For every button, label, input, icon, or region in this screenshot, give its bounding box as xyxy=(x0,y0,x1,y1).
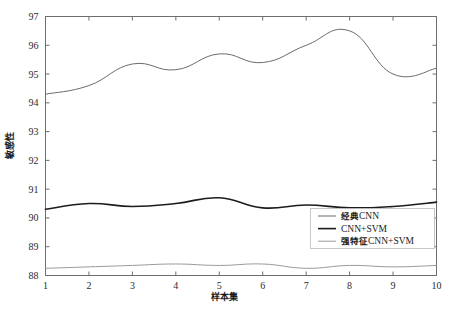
legend-label-2: CNN+SVM xyxy=(341,224,388,234)
line-chart: 88899091929394959697 12345678910 样本集 敏感性… xyxy=(0,0,449,309)
y-tick-label: 92 xyxy=(29,155,39,166)
y-tick-label: 90 xyxy=(29,212,39,223)
x-tick-label: 2 xyxy=(86,280,91,291)
y-tick-label: 91 xyxy=(29,184,39,195)
x-tick-label: 3 xyxy=(130,280,135,291)
x-tick-label: 5 xyxy=(217,280,222,291)
x-axis-title: 样本集 xyxy=(211,291,239,302)
x-tick-label: 1 xyxy=(43,280,48,291)
chart-container: 88899091929394959697 12345678910 样本集 敏感性… xyxy=(0,0,449,309)
legend: 经典CNNCNN+SVM强特征CNN+SVM xyxy=(311,209,435,249)
x-tick-label: 8 xyxy=(347,280,352,291)
x-tick-label: 6 xyxy=(260,280,265,291)
legend-label-cn-3: 强特征 xyxy=(341,236,368,246)
y-tick-label: 89 xyxy=(29,241,39,252)
y-tick-label: 94 xyxy=(29,97,39,108)
x-tick-label: 4 xyxy=(173,280,178,291)
y-tick-label: 95 xyxy=(29,69,39,80)
legend-label-cn-1: 经典 xyxy=(341,211,359,221)
y-axis-title: 敏感性 xyxy=(4,132,15,160)
y-tick-label: 96 xyxy=(29,40,39,51)
series-line-1 xyxy=(46,29,437,94)
legend-label-3: CNN+SVM xyxy=(368,236,415,246)
y-tick-label: 88 xyxy=(29,270,39,281)
y-tick-label: 93 xyxy=(29,126,39,137)
x-tick-label: 7 xyxy=(304,280,309,291)
series-line-2 xyxy=(46,198,437,210)
series-line-3 xyxy=(46,264,437,268)
y-tick-label: 97 xyxy=(29,11,39,22)
legend-label-1: CNN xyxy=(359,211,379,221)
x-tick-label: 10 xyxy=(432,280,442,291)
x-tick-label: 9 xyxy=(391,280,396,291)
x-axis: 12345678910 xyxy=(43,17,442,291)
